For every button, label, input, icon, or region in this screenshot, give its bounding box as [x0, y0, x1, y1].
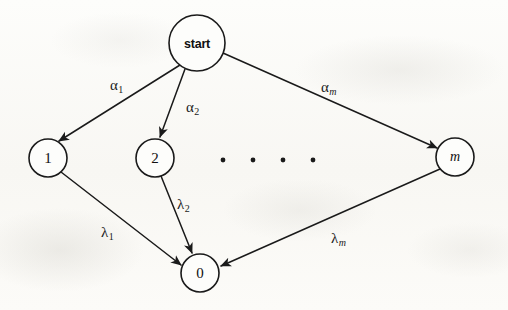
alpha-m-subscript: m: [329, 86, 336, 97]
edge-start-to-m: [223, 53, 437, 148]
edge-2-to-0: [161, 176, 192, 253]
ellipsis-dot: [311, 158, 316, 163]
state-transition-graph: [0, 0, 508, 310]
edge-start-to-1: [59, 65, 180, 141]
alpha-1-subscript: 1: [118, 84, 123, 95]
lambda-glyph: λ: [101, 224, 108, 240]
edge-label-alpha-2: α2: [186, 100, 199, 117]
ellipsis-dot: [221, 158, 226, 163]
lambda-m-subscript: m: [339, 237, 346, 248]
lambda-glyph: λ: [331, 230, 338, 246]
node-start-label: start: [184, 38, 210, 51]
edge-label-lambda-m: λm: [331, 231, 346, 248]
alpha-glyph: α: [321, 79, 329, 95]
ellipsis-dot: [251, 158, 256, 163]
node-0-label: 0: [196, 266, 204, 281]
alpha-2-subscript: 2: [194, 106, 199, 117]
lambda-2-subscript: 2: [185, 203, 190, 214]
edge-1-to-0: [61, 172, 181, 265]
alpha-glyph: α: [186, 99, 194, 115]
edge-start-to-2: [160, 69, 185, 137]
node-m-label: m: [450, 150, 460, 164]
figure-canvas: start 1 2 m 0 α1 α2 αm λ1 λ2 λm: [0, 0, 508, 310]
edge-label-alpha-1: α1: [110, 78, 123, 95]
ellipsis-dots: [221, 158, 316, 163]
edge-m-to-0: [221, 169, 440, 266]
ellipsis-dot: [281, 158, 286, 163]
lambda-1-subscript: 1: [109, 231, 114, 242]
node-2-label: 2: [151, 151, 159, 166]
alpha-glyph: α: [110, 77, 118, 93]
lambda-glyph: λ: [177, 196, 184, 212]
edge-label-alpha-m: αm: [321, 80, 337, 97]
node-1-label: 1: [44, 151, 52, 166]
edge-label-lambda-1: λ1: [101, 225, 114, 242]
edge-label-lambda-2: λ2: [177, 197, 190, 214]
